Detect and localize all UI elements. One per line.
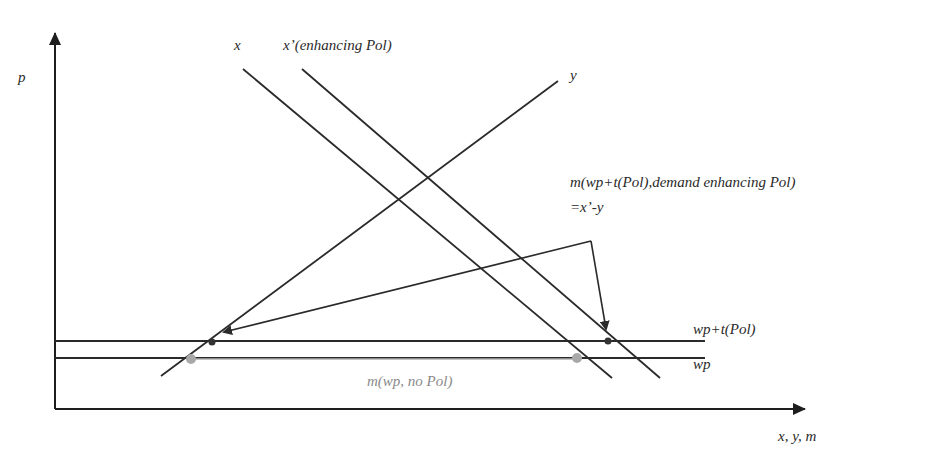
x-demand-curve (243, 69, 612, 378)
y-axis-label: p (17, 69, 26, 85)
m-no-pol-label: m(wp, no Pol) (367, 373, 452, 390)
dot-left-wp-plus-t (209, 339, 216, 346)
arrow-to-right-point (591, 241, 606, 329)
m-enhancing-label-line2: =x’-y (570, 199, 604, 215)
x-prime-demand-curve (302, 69, 660, 378)
arrow-to-left-point (224, 241, 591, 332)
wp-plus-t-label: wp+t(Pol) (693, 321, 756, 338)
wp-label: wp (693, 356, 711, 372)
trade-diagram: p x, y, m x x’(enhancing Pol) y m(wp+t(P… (0, 0, 929, 464)
x-prime-curve-label: x’(enhancing Pol) (282, 37, 392, 54)
x-axis-label: x, y, m (777, 428, 816, 444)
x-curve-label: x (233, 37, 241, 53)
dot-left-wp (186, 354, 196, 364)
dot-right-wp (572, 353, 582, 363)
axes (55, 33, 805, 409)
y-supply-curve (161, 81, 558, 376)
y-curve-label: y (568, 67, 577, 83)
dot-right-wp-plus-t (605, 338, 612, 345)
m-enhancing-label-line1: m(wp+t(Pol),demand enhancing Pol) (570, 174, 796, 191)
